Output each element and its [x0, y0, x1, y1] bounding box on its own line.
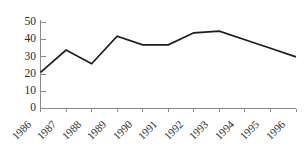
- line-chart-figure: 0 10 20 30 40 50: [0, 0, 305, 167]
- x-axis-label-1995: 1995: [237, 118, 261, 142]
- x-axis-ticks: [41, 109, 297, 113]
- x-axis-label-1992: 1992: [161, 118, 185, 142]
- x-axis-label-1993: 1993: [186, 118, 210, 142]
- y-axis-group: 0 10 20 30 40 50: [25, 15, 46, 113]
- x-axis-label-1988: 1988: [59, 118, 83, 142]
- y-axis-label-20: 20: [25, 67, 37, 79]
- x-axis-label-1986: 1986: [9, 118, 33, 142]
- y-axis-labels: 0 10 20 30 40 50: [25, 15, 37, 113]
- x-axis-group: 1986 1987 1988 1989 1990 1991 1992 1993 …: [9, 109, 296, 142]
- x-axis-label-1987: 1987: [34, 118, 58, 142]
- x-axis-label-1990: 1990: [110, 118, 134, 142]
- y-axis-ticks: [41, 23, 46, 109]
- y-axis-label-30: 30: [25, 50, 37, 62]
- x-axis-label-1996: 1996: [263, 118, 287, 142]
- data-series-line: [41, 31, 297, 72]
- chart-plot-area: 0 10 20 30 40 50: [0, 0, 305, 167]
- y-axis-label-0: 0: [30, 101, 36, 113]
- y-axis-label-10: 10: [25, 84, 37, 96]
- x-axis-label-1994: 1994: [212, 118, 236, 142]
- x-axis-label-1989: 1989: [84, 118, 108, 142]
- x-axis-label-1991: 1991: [135, 118, 159, 142]
- x-axis-labels: 1986 1987 1988 1989 1990 1991 1992 1993 …: [9, 118, 287, 142]
- y-axis-label-40: 40: [25, 32, 37, 44]
- y-axis-label-50: 50: [25, 15, 37, 27]
